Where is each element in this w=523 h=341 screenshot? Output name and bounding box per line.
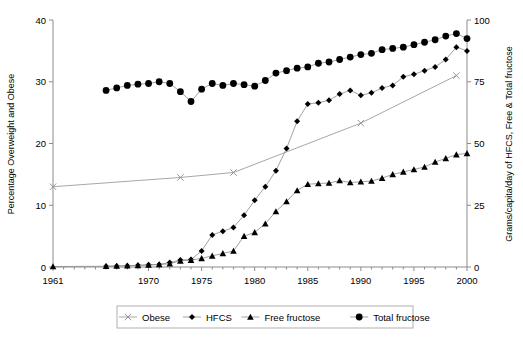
circle-marker [177,88,184,95]
circle-marker [336,56,343,63]
x-tick-label: 1970 [138,275,159,286]
circle-marker [209,80,216,87]
circle-marker [251,83,258,90]
x-tick-label: 1975 [191,275,212,286]
circle-marker [368,50,375,57]
circle-marker [198,86,205,93]
circle-marker [166,80,173,87]
x-tick-label: 2000 [456,275,477,286]
left-tick-label: 0 [41,262,46,273]
chart-container: 010203040 0255075100 1961197019751980198… [0,0,523,341]
x-tick-label: 1995 [403,275,424,286]
triangle-marker [336,177,343,183]
triangle-marker [421,164,428,170]
right-axis-ticks: 0255075100 [467,15,490,273]
circle-marker [356,314,363,321]
circle-marker [464,35,471,42]
circle-marker [188,98,195,105]
circle-marker [453,30,460,37]
right-tick-label: 75 [474,76,485,87]
legend-item-label: Free fructose [264,312,320,323]
circle-marker [219,82,226,89]
diamond-marker [337,91,343,97]
right-tick-label: 50 [474,138,485,149]
x-marker [453,72,459,78]
triangle-marker [379,175,386,181]
triangle-marker [432,159,439,165]
circle-marker [273,70,280,77]
diamond-marker [273,168,279,174]
circle-marker [389,45,396,52]
triangle-marker [464,150,471,156]
circle-marker [400,44,407,51]
x-marker [358,120,364,126]
chart-svg: 010203040 0255075100 1961197019751980198… [0,0,523,341]
circle-marker [315,60,322,67]
legend-item-label: Total fructose [373,312,430,323]
diamond-marker [220,228,226,234]
right-tick-label: 0 [474,262,479,273]
triangle-marker [241,233,248,239]
diamond-marker [209,232,215,238]
diamond-marker [305,101,311,107]
x-axis-ticks: 19611970197519801985199019952000 [42,267,477,286]
circle-marker [241,81,248,88]
diamond-marker [379,85,385,91]
diamond-marker [411,71,417,77]
diamond-marker [347,87,353,93]
left-tick-label: 30 [35,76,46,87]
circle-marker [145,80,152,87]
series-hfcs [103,44,470,269]
series-line [53,76,456,187]
circle-marker [124,82,131,89]
diamond-marker [315,100,321,106]
x-tick-label: 1985 [297,275,318,286]
series-total-fructose [103,30,471,105]
circle-marker [347,54,354,61]
x-tick-label: 1961 [42,275,63,286]
left-axis-ticks: 010203040 [35,15,53,273]
diamond-marker [284,145,290,151]
legend-items: ObeseHFCSFree fructoseTotal fructose [119,312,430,323]
circle-marker [326,59,333,66]
triangle-marker [442,155,449,161]
diamond-marker [326,97,332,103]
legend-item-label: Obese [142,312,170,323]
right-tick-label: 100 [474,15,490,26]
circle-marker [294,65,301,72]
diamond-marker [422,68,428,74]
circle-marker [442,33,449,40]
right-axis-title: Grams/capita/day of HFCS, Free & Total f… [504,46,514,241]
diamond-marker [358,92,364,98]
circle-marker [103,87,110,94]
x-tick-label: 1990 [350,275,371,286]
triangle-marker [230,248,237,254]
diamond-marker [464,48,470,54]
series-obese [50,72,460,190]
right-tick-label: 25 [474,200,485,211]
circle-marker [230,80,237,87]
left-tick-label: 40 [35,15,46,26]
circle-marker [262,77,269,84]
circle-marker [421,39,428,46]
left-tick-label: 10 [35,200,46,211]
left-tick-label: 20 [35,138,46,149]
diamond-marker [368,90,374,96]
circle-marker [283,67,290,74]
circle-marker [432,36,439,43]
circle-marker [135,81,142,88]
legend-item-label: HFCS [206,312,232,323]
chart-legend: ObeseHFCSFree fructoseTotal fructose [117,306,430,328]
circle-marker [156,78,163,85]
circle-marker [304,64,311,71]
series-free-fructose [50,150,471,269]
left-axis-title: Percentage Overweight and Obese [6,74,16,215]
circle-marker [379,46,386,53]
circle-marker [411,41,418,48]
series-layer [50,30,471,269]
circle-marker [357,51,364,58]
series-line [53,153,467,266]
x-tick-label: 1980 [244,275,265,286]
diamond-marker [432,64,438,70]
circle-marker [113,85,120,92]
